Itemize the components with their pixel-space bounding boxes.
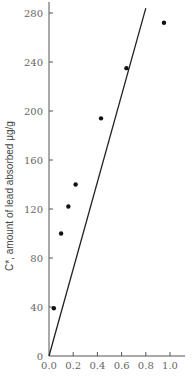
y-tick-label: 200 xyxy=(24,106,43,117)
x-axis-ticks: 0.00.20.40.60.81.0 xyxy=(41,352,178,371)
y-tick-label: 40 xyxy=(30,302,43,313)
y-tick-label: 120 xyxy=(24,204,43,215)
data-point xyxy=(99,116,103,120)
x-tick-label: 0.0 xyxy=(41,360,57,371)
y-tick-label: 240 xyxy=(24,57,43,68)
data-point xyxy=(73,182,77,186)
data-point xyxy=(59,231,63,235)
x-tick-label: 0.8 xyxy=(138,360,154,371)
x-tick-label: 0.6 xyxy=(114,360,130,371)
axes xyxy=(49,2,185,356)
scatter-chart: 04080120160200240280 0.00.20.40.60.81.0 … xyxy=(0,0,193,382)
fit-line xyxy=(49,8,146,356)
data-point xyxy=(66,204,70,208)
y-tick-label: 80 xyxy=(30,253,43,264)
data-point xyxy=(52,306,56,310)
data-point xyxy=(162,21,166,25)
data-point xyxy=(124,66,128,70)
x-tick-label: 0.4 xyxy=(89,360,105,371)
data-series xyxy=(49,8,166,356)
x-tick-label: 1.0 xyxy=(162,360,178,371)
y-axis-label: C*, amount of lead absorbed μg/g xyxy=(4,121,15,271)
x-tick-label: 0.2 xyxy=(65,360,81,371)
y-tick-label: 280 xyxy=(24,8,43,19)
y-tick-label: 160 xyxy=(24,155,43,166)
